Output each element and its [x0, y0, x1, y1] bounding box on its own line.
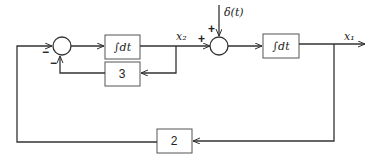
- gain-2-label: 2: [171, 134, 178, 148]
- sum1-left-sign: −: [42, 45, 49, 59]
- arrow-x2-to-gain3: [141, 46, 176, 73]
- arrow-gain2-to-sum1: [17, 46, 157, 142]
- integrator-block-1: ∫dt: [105, 35, 140, 59]
- block-diagram: ∫dt x₂ + 3 − δ(t) + ∫dt x₁ 2 −: [0, 0, 382, 162]
- gain-block-2: 2: [157, 129, 192, 153]
- x1-label: x₁: [344, 30, 355, 43]
- delta-input-label: δ(t): [224, 6, 244, 19]
- x2-label: x₂: [176, 30, 187, 43]
- integrator-block-2: ∫dt: [263, 34, 299, 58]
- gain-3-label: 3: [119, 67, 126, 81]
- summing-junction-2: [210, 37, 228, 55]
- arrow-gain3-to-sum1: [60, 56, 105, 73]
- sum1-bottom-sign: −: [50, 56, 57, 70]
- gain-block-3: 3: [105, 62, 140, 86]
- sum2-top-sign: +: [208, 22, 215, 36]
- integrator-2-label: ∫dt: [272, 40, 290, 53]
- summing-junction-1: [53, 37, 71, 55]
- arrow-x1-to-gain2: [193, 44, 334, 141]
- sum2-left-sign: +: [198, 32, 205, 46]
- integrator-1-label: ∫dt: [114, 41, 132, 54]
